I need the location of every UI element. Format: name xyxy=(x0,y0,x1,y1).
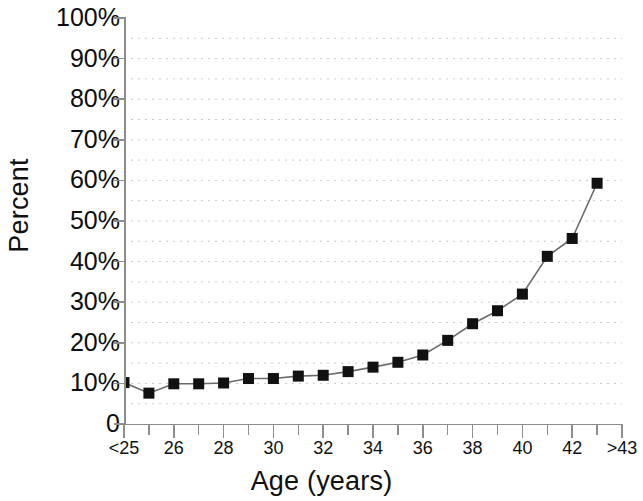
data-point-marker: 34: 14% xyxy=(368,362,379,373)
plot-area: <25: 10.2%25: 7.6%26: 9.9%27: 9.9%28: 10… xyxy=(124,18,622,424)
y-tick-label: 60% xyxy=(28,167,120,192)
data-point-marker: 38: 24.7% xyxy=(467,318,478,329)
x-tick-label: 34 xyxy=(363,437,383,459)
y-tick-label: 40% xyxy=(28,249,120,274)
data-point-marker: 42: 45.7% xyxy=(567,233,578,244)
data-point-marker: 28: 10.1% xyxy=(218,377,229,388)
y-axis-tick xyxy=(114,58,124,60)
x-tick-label: 26 xyxy=(164,437,184,459)
x-axis-tick xyxy=(198,425,200,435)
y-axis-tick xyxy=(114,139,124,141)
data-point-marker: 26: 9.9% xyxy=(168,378,179,389)
x-axis-tick xyxy=(248,425,250,435)
data-point-marker: 39: 27.9% xyxy=(492,305,503,316)
x-axis-tick xyxy=(497,425,499,435)
data-point-marker: 40: 32% xyxy=(517,289,528,300)
x-axis-ticks xyxy=(0,425,643,436)
y-axis-tick xyxy=(114,220,124,222)
x-tick-label: 40 xyxy=(512,437,532,459)
data-point-marker: 35: 15.2% xyxy=(392,357,403,368)
x-axis-tick xyxy=(596,425,598,435)
x-tick-label: 36 xyxy=(413,437,433,459)
x-axis-tick xyxy=(298,425,300,435)
x-tick-label: 30 xyxy=(263,437,283,459)
y-axis-tick xyxy=(114,383,124,385)
x-tick-label: 28 xyxy=(214,437,234,459)
data-point-marker: 27: 9.9% xyxy=(193,378,204,389)
y-tick-label: 80% xyxy=(28,86,120,111)
x-axis-title: Age (years) xyxy=(0,466,643,497)
y-axis-tick xyxy=(114,98,124,100)
y-axis-tick xyxy=(114,261,124,263)
data-point-marker: 36: 17% xyxy=(417,349,428,360)
chart-figure: Percent 100%90%80%70%60%50%40%30%20%10%0… xyxy=(0,0,643,501)
x-tick-label: 42 xyxy=(562,437,582,459)
x-axis-tick xyxy=(148,425,150,435)
x-axis-tick-labels: <25262830323436384042>43 xyxy=(0,437,643,465)
x-tick-label: >43 xyxy=(607,437,638,459)
y-tick-label: 10% xyxy=(28,370,120,395)
data-point-marker: 33: 12.9% xyxy=(343,366,354,377)
x-axis-tick xyxy=(347,425,349,435)
y-tick-label: 90% xyxy=(28,46,120,71)
y-axis-line xyxy=(124,17,126,425)
x-tick-label: <25 xyxy=(109,437,140,459)
x-axis-tick xyxy=(447,425,449,435)
data-point-marker: 25: 7.6% xyxy=(143,388,154,399)
x-axis-tick xyxy=(397,425,399,435)
y-tick-label: 20% xyxy=(28,330,120,355)
y-tick-label: 100% xyxy=(28,5,120,30)
series-canvas: <25: 10.2%25: 7.6%26: 9.9%27: 9.9%28: 10… xyxy=(124,18,622,424)
x-axis-tick xyxy=(547,425,549,435)
data-point-marker: 29: 11.2% xyxy=(243,373,254,384)
y-axis-tick xyxy=(114,17,124,19)
x-tick-label: 38 xyxy=(463,437,483,459)
data-point-marker: 32: 12% xyxy=(318,370,329,381)
data-point-marker: >43: 59.3% xyxy=(592,178,603,189)
series-line xyxy=(124,183,597,393)
y-axis-tick xyxy=(114,180,124,182)
y-tick-label: 50% xyxy=(28,208,120,233)
y-axis-tick xyxy=(114,342,124,344)
data-point-marker: 37: 20.6% xyxy=(442,335,453,346)
x-tick-label: 32 xyxy=(313,437,333,459)
y-tick-label: 30% xyxy=(28,289,120,314)
y-axis-tick xyxy=(114,301,124,303)
data-point-marker: 30: 11.2% xyxy=(268,373,279,384)
data-point-marker: 41: 41.3% xyxy=(542,251,553,262)
data-point-marker: 31: 11.8% xyxy=(293,371,304,382)
y-tick-label: 70% xyxy=(28,127,120,152)
